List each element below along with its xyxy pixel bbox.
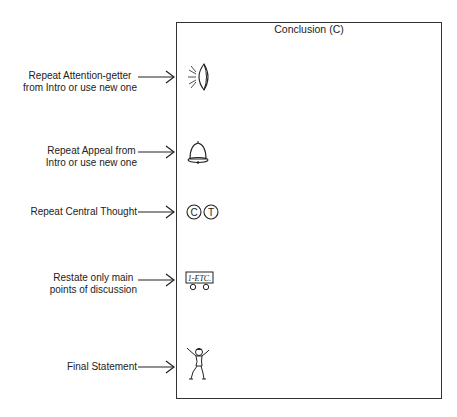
arrow-icon <box>138 70 176 84</box>
ct-circles-icon: C T <box>186 203 220 221</box>
label-appeal: Repeat Appeal from Intro or use new one <box>46 145 137 169</box>
flashlight-icon <box>186 62 216 92</box>
bell-icon <box>186 140 210 166</box>
arrow-icon <box>138 360 176 374</box>
arrow-icon <box>138 145 176 159</box>
svg-text:C: C <box>190 207 197 218</box>
svg-text:1-ETC.: 1-ETC. <box>188 274 211 283</box>
label-main-points: Restate only main points of discussion <box>50 272 137 296</box>
wagon-icon: 1-ETC. <box>185 270 215 292</box>
arrow-icon <box>138 205 176 219</box>
svg-text:T: T <box>208 207 214 218</box>
label-final-statement: Final Statement <box>67 361 137 373</box>
label-attention-getter: Repeat Attention-getter from Intro or us… <box>23 70 137 94</box>
arrow-icon <box>138 273 176 287</box>
cheering-figure-icon <box>184 346 212 382</box>
box-title: Conclusion (C) <box>176 22 442 35</box>
label-central-thought: Repeat Central Thought <box>30 206 137 218</box>
